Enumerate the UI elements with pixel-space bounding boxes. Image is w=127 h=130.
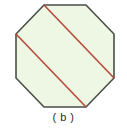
octagon-diagram bbox=[0, 0, 127, 112]
octagon-shape bbox=[16, 5, 114, 107]
figure-caption: ( b ) bbox=[0, 110, 127, 124]
figure-container: ( b ) bbox=[0, 0, 127, 130]
